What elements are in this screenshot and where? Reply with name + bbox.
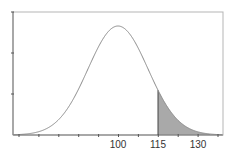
x-tick-label-115: 115 — [150, 139, 166, 150]
normal-distribution-chart: 100 115 130 — [0, 0, 237, 153]
x-tick-label-130: 130 — [190, 139, 207, 150]
plot-frame — [13, 12, 223, 135]
x-tick-label-100: 100 — [110, 139, 127, 150]
